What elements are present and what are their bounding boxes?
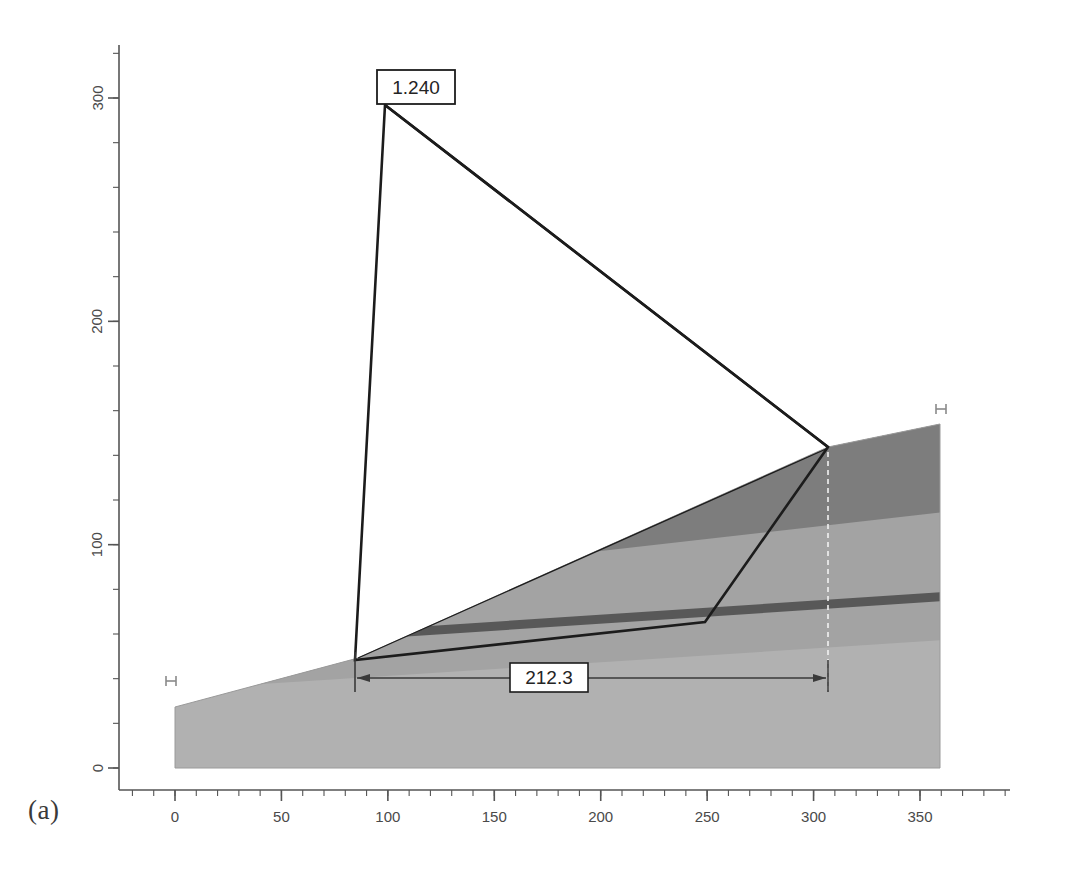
x-axis-ticks: 050100150200250300350: [132, 790, 1005, 825]
x-tick-label: 300: [801, 808, 826, 825]
left-boundary-marker: [166, 676, 176, 686]
soil-layer-stack: [170, 415, 945, 775]
figure-canvas: 212.3 1.240 0100200300 05010015020025030…: [0, 0, 1073, 870]
x-tick-label: 100: [375, 808, 400, 825]
figure-caption: (a): [28, 795, 59, 826]
y-tick-label: 300: [89, 85, 106, 110]
slide-width-label: 212.3: [525, 667, 573, 688]
factor-of-safety-label: 1.240: [392, 77, 440, 98]
y-axis: 0100200300: [89, 45, 120, 790]
right-boundary-marker: [936, 404, 946, 414]
x-axis: 050100150200250300350: [119, 790, 1010, 825]
y-axis-ticks: 0100200300: [89, 53, 120, 772]
x-tick-label: 150: [482, 808, 507, 825]
wedge-top-chord: [385, 105, 828, 447]
slope-stability-plot: 212.3 1.240 0100200300 05010015020025030…: [0, 0, 1073, 870]
x-tick-label: 200: [588, 808, 613, 825]
factor-of-safety-callout: 1.240: [377, 70, 455, 104]
y-tick-label: 200: [89, 309, 106, 334]
y-tick-label: 100: [89, 532, 106, 557]
x-tick-label: 350: [907, 808, 932, 825]
x-tick-label: 250: [695, 808, 720, 825]
x-tick-label: 50: [273, 808, 290, 825]
y-tick-label: 0: [89, 764, 106, 772]
x-tick-label: 0: [171, 808, 179, 825]
